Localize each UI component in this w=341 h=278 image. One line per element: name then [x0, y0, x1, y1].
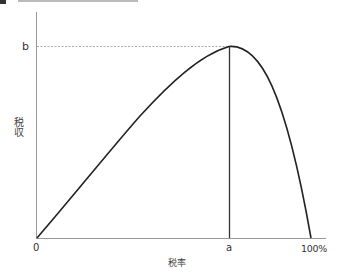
revenue-curve [37, 46, 311, 238]
x-tick-100: 100% [301, 244, 327, 254]
x-axis-label: 税率 [168, 259, 186, 268]
laffer-curve-chart [0, 0, 341, 278]
y-tick-b: b [22, 41, 29, 52]
y-axis-label: 税収 [11, 117, 22, 137]
x-tick-a: a [226, 243, 232, 253]
x-tick-origin: 0 [33, 243, 39, 253]
